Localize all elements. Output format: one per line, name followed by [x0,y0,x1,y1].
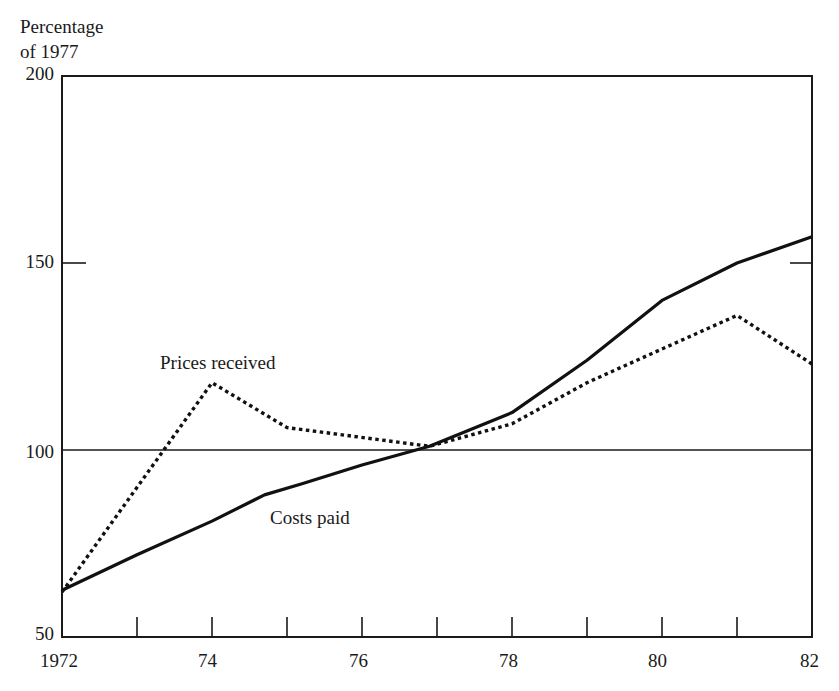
x-tick-label-76: 76 [349,650,368,672]
annotation-costs-paid: Costs paid [270,507,350,529]
chart-plot [0,0,839,691]
x-tick-label-82: 82 [800,650,819,672]
y-tick-label-200: 200 [26,63,55,85]
x-tick-label-80: 80 [648,650,667,672]
y-tick-label-50: 50 [35,623,54,645]
annotation-prices-received: Prices received [160,352,276,374]
x-tick-label-74: 74 [198,650,217,672]
y-tick-label-150: 150 [26,251,55,273]
costs-paid-line [62,237,812,591]
x-tick-label-78: 78 [499,650,518,672]
series-lines [62,237,812,592]
x-tick-label-1972: 1972 [40,650,78,672]
y-tick-label-100: 100 [26,441,55,463]
